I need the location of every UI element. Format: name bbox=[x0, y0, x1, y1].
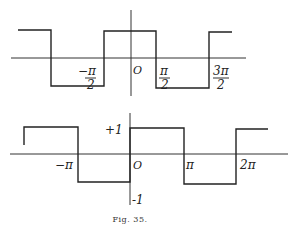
label-top-origin: O bbox=[133, 64, 142, 77]
label-two-pi: 2π bbox=[239, 158, 257, 172]
top-square-wave bbox=[18, 30, 232, 88]
label-plus-one: +1 bbox=[105, 123, 123, 137]
label-bottom-origin: O bbox=[133, 159, 142, 172]
figure-35: −π 2 O π 2 3π 2 +1 -1 −π O π 2π Fig. 35. bbox=[0, 0, 295, 228]
label-neg-half-pi-num: −π bbox=[78, 64, 97, 78]
label-half-pi-num: π bbox=[159, 64, 169, 78]
label-neg-pi: −π bbox=[55, 158, 74, 172]
bottom-graph: +1 -1 −π O π 2π bbox=[10, 113, 288, 207]
label-half-pi-den: 2 bbox=[160, 78, 169, 92]
top-graph: −π 2 O π 2 3π 2 bbox=[11, 10, 246, 96]
figure-caption: Fig. 35. bbox=[112, 215, 147, 224]
label-three-half-pi-num: 3π bbox=[213, 64, 230, 78]
label-neg-half-pi-den: 2 bbox=[86, 78, 95, 92]
label-three-half-pi-den: 2 bbox=[216, 78, 225, 92]
bottom-square-wave bbox=[24, 127, 268, 184]
label-minus-one: -1 bbox=[132, 193, 144, 207]
label-pi: π bbox=[185, 158, 195, 172]
